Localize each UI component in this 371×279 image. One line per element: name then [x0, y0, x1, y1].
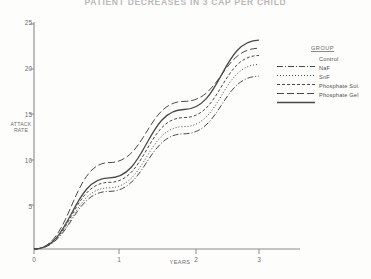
- legend-item-label: NaF: [319, 65, 330, 71]
- legend-swatch-icon: [277, 65, 315, 72]
- legend: GROUP ControlNaFSnFPhosphate Sol.Phospha…: [277, 36, 369, 99]
- y-axis-ticks: [30, 24, 34, 205]
- legend-swatch-icon: [277, 56, 315, 63]
- chart-container: PATIENT DECREASES IN 3 CAP PER CHILD ATT…: [0, 0, 371, 279]
- legend-item[interactable]: Control: [277, 55, 369, 63]
- legend-item[interactable]: Phosphate Sol.: [277, 82, 369, 90]
- legend-item[interactable]: NaF: [277, 64, 369, 72]
- series-line: [34, 76, 259, 249]
- legend-rows: ControlNaFSnFPhosphate Sol.Phosphate Gel: [277, 55, 369, 99]
- legend-item-label: SnF: [319, 74, 330, 80]
- legend-swatch-icon: [277, 92, 315, 99]
- legend-swatch-icon: [277, 74, 315, 81]
- legend-item-label: Phosphate Gel: [319, 92, 359, 98]
- legend-item-label: Phosphate Sol.: [319, 83, 360, 89]
- series-line: [34, 40, 259, 249]
- legend-item[interactable]: Phosphate Gel: [277, 91, 369, 99]
- legend-item-label: Control: [319, 56, 338, 62]
- series-line: [34, 48, 259, 249]
- data-series-group: [34, 40, 259, 249]
- x-axis-ticks: [34, 249, 259, 254]
- legend-item[interactable]: SnF: [277, 73, 369, 81]
- legend-swatch-icon: [277, 83, 315, 90]
- legend-title: GROUP: [311, 45, 334, 52]
